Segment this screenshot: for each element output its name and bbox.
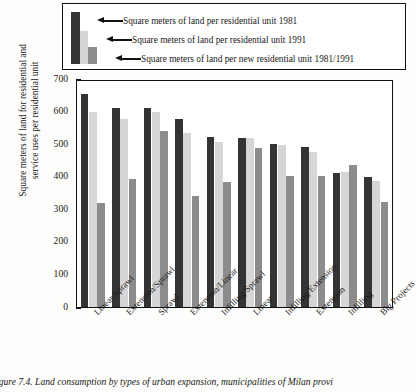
bar xyxy=(183,133,191,307)
y-tick-label: 300 xyxy=(54,203,68,214)
bar xyxy=(238,138,246,307)
bar xyxy=(270,144,278,308)
bar xyxy=(144,108,152,307)
bar xyxy=(349,165,357,307)
y-tick-label: 0 xyxy=(63,301,68,312)
bar xyxy=(301,147,309,307)
bar-group xyxy=(172,81,204,307)
legend-item-new-unit: Square meters of land per new residentia… xyxy=(115,50,354,66)
dark-bar-swatch xyxy=(71,12,80,64)
bar xyxy=(175,119,183,307)
y-tick-label: 500 xyxy=(54,138,68,149)
y-tick-label: 200 xyxy=(54,235,68,246)
bar-group xyxy=(266,81,298,307)
bar xyxy=(89,112,97,307)
figure-caption: igure 7.4. Land consumption by types of … xyxy=(0,376,416,387)
arrow-left-icon xyxy=(97,16,123,25)
bar xyxy=(286,176,294,307)
chart-legend: Square meters of land per residential un… xyxy=(62,3,406,70)
legend-item-1991: Square meters of land per residential un… xyxy=(106,31,306,47)
legend-label-new-unit: Square meters of land per new residentia… xyxy=(141,54,354,64)
y-axis-ticks: 7006005004003002001000 xyxy=(0,80,76,308)
y-tick-label: 400 xyxy=(54,170,68,181)
legend-label-1991: Square meters of land per residential un… xyxy=(132,35,306,45)
bar-group xyxy=(77,81,109,307)
x-axis-labels: Linear/SprawlExtension/SprawlSprawlExten… xyxy=(76,308,393,370)
y-tick-label: 700 xyxy=(54,73,68,84)
legend-label-1981: Square meters of land per residential un… xyxy=(123,16,297,26)
y-tick-label: 100 xyxy=(54,268,68,279)
bar xyxy=(278,145,286,307)
light-bar-swatch xyxy=(80,31,88,64)
bar xyxy=(81,94,89,307)
y-tick-label: 600 xyxy=(54,105,68,116)
legend-inner: Square meters of land per residential un… xyxy=(63,4,405,69)
arrow-left-icon xyxy=(106,35,132,44)
bar xyxy=(364,177,372,307)
caption-text: igure 7.4. Land consumption by types of … xyxy=(0,376,333,387)
bar xyxy=(223,182,231,307)
bar-group xyxy=(361,81,393,307)
bar xyxy=(192,196,200,307)
bar xyxy=(129,179,137,307)
bar xyxy=(372,181,380,307)
bar-group xyxy=(109,81,141,307)
arrow-left-icon xyxy=(115,54,141,63)
legend-item-1981: Square meters of land per residential un… xyxy=(97,12,297,28)
bar xyxy=(112,108,120,307)
bar xyxy=(381,202,389,307)
medium-bar-swatch xyxy=(88,47,97,64)
bar xyxy=(207,137,215,307)
bar xyxy=(97,203,105,307)
